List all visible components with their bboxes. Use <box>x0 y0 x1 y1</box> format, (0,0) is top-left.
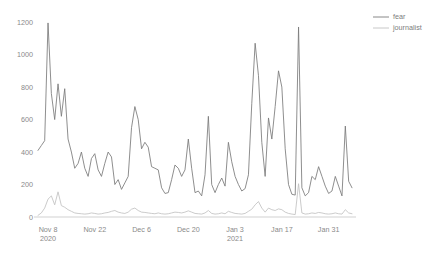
x-tick-label: Dec 20 <box>177 225 200 234</box>
line-chart: 020040060080010001200 Nov 82020Nov 22Dec… <box>0 0 438 262</box>
x-tick-sublabel: 2020 <box>40 234 56 243</box>
x-tick-label: Jan 3 <box>226 225 244 234</box>
chart-legend: fearjournalist <box>373 12 422 32</box>
legend-label-fear: fear <box>393 12 406 21</box>
series-line-fear <box>38 23 352 196</box>
y-tick-label: 1000 <box>17 50 33 59</box>
x-tick-label: Dec 6 <box>132 225 151 234</box>
y-tick-label: 0 <box>29 213 33 222</box>
y-tick-label: 200 <box>21 180 33 189</box>
x-tick-label: Jan 31 <box>318 225 340 234</box>
x-tick-sublabel: 2021 <box>227 234 243 243</box>
y-tick-label: 600 <box>21 115 33 124</box>
x-tick-label: Nov 22 <box>83 225 106 234</box>
x-axis-tick-labels: Nov 82020Nov 22Dec 6Dec 20Jan 32021Jan 1… <box>39 225 340 243</box>
y-axis-tick-labels: 020040060080010001200 <box>17 18 33 222</box>
series-line-journalist <box>38 184 352 216</box>
y-tick-label: 800 <box>21 83 33 92</box>
y-tick-label: 400 <box>21 148 33 157</box>
legend-label-journalist: journalist <box>392 23 422 32</box>
chart-canvas: 020040060080010001200 Nov 82020Nov 22Dec… <box>0 0 438 262</box>
series-group <box>38 23 352 215</box>
x-tick-label: Jan 17 <box>271 225 293 234</box>
y-tick-label: 1200 <box>17 18 33 27</box>
x-tick-label: Nov 8 <box>39 225 58 234</box>
